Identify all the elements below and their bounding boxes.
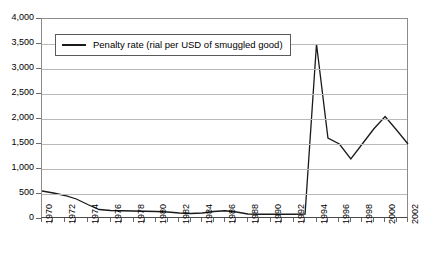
x-axis-tick-1978 [133,218,134,222]
gridline-2000 [42,119,407,120]
y-axis-label-2500: 2,500 [0,88,34,97]
x-axis-tick-1986 [224,218,225,222]
legend-line-swatch [62,44,86,46]
chart-legend: Penalty rate (rial per USD of smuggled g… [55,34,291,56]
x-axis-tick-1996 [338,218,339,222]
x-axis-tick-1994 [316,218,317,222]
legend-label: Penalty rate (rial per USD of smuggled g… [93,40,283,50]
x-axis-tick-1980 [155,218,156,222]
gridline-1000 [42,169,407,170]
y-axis-tick-1500 [36,143,41,144]
x-axis-tick-1990 [270,218,271,222]
gridline-3000 [42,69,407,70]
x-axis-label-1978: 1978 [137,204,146,224]
y-axis-tick-1000 [36,168,41,169]
x-axis-label-1990: 1990 [274,204,283,224]
x-axis-label-1980: 1980 [159,204,168,224]
x-axis-label-1970: 1970 [45,204,54,224]
x-axis-label-1982: 1982 [182,204,191,224]
x-axis-tick-1976 [110,218,111,222]
y-axis-tick-3000 [36,68,41,69]
x-axis-tick-1970 [41,218,42,222]
x-axis-tick-2002 [407,218,408,222]
y-axis-label-500: 500 [0,188,34,197]
x-axis-label-2002: 2002 [411,204,420,224]
x-axis-tick-1972 [64,218,65,222]
y-axis-tick-2000 [36,118,41,119]
y-axis-label-1500: 1,500 [0,138,34,147]
chart-container: 4,0003,5003,0002,5002,0001,5001,0005000 … [0,0,434,272]
x-axis-tick-1988 [247,218,248,222]
y-axis-tick-2500 [36,93,41,94]
x-axis-label-2000: 2000 [388,204,397,224]
x-axis-label-1992: 1992 [297,204,306,224]
gridline-500 [42,194,407,195]
x-axis-label-1974: 1974 [91,204,100,224]
y-axis-label-3000: 3,000 [0,63,34,72]
y-axis-tick-3500 [36,43,41,44]
y-axis-label-1000: 1,000 [0,163,34,172]
x-axis-tick-1992 [293,218,294,222]
x-axis-label-1986: 1986 [228,204,237,224]
x-axis-label-1996: 1996 [342,204,351,224]
y-axis-label-2000: 2,000 [0,113,34,122]
x-axis-tick-2000 [384,218,385,222]
gridline-1500 [42,144,407,145]
y-axis-label-4000: 4,000 [0,13,34,22]
x-axis-label-1972: 1972 [68,204,77,224]
gridline-2500 [42,94,407,95]
x-axis-label-1976: 1976 [114,204,123,224]
y-axis-tick-500 [36,193,41,194]
y-axis-label-0: 0 [0,213,34,222]
x-axis-label-1984: 1984 [205,204,214,224]
y-axis-label-3500: 3,500 [0,38,34,47]
x-axis-tick-1984 [201,218,202,222]
x-axis-tick-1998 [361,218,362,222]
x-axis-label-1994: 1994 [320,204,329,224]
x-axis-tick-1974 [87,218,88,222]
x-axis-label-1988: 1988 [251,204,260,224]
x-axis-tick-1982 [178,218,179,222]
y-axis-tick-4000 [36,18,41,19]
x-axis-label-1998: 1998 [365,204,374,224]
